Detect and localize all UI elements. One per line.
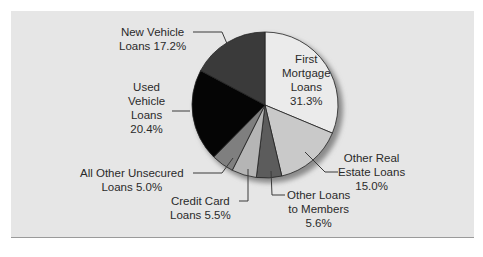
label-line: Loans [282,80,331,94]
label-credit-card: Credit Card Loans 5.5% [170,194,231,222]
label-value: 31.3% [282,94,331,108]
leader-new-vehicle [193,32,228,46]
label-line: Other Loans [287,188,350,202]
label-value: Loans 5.0% [80,180,184,194]
label-line: Credit Card [170,194,231,208]
label-used-vehicle: Used Vehicle Loans 20.4% [128,80,165,136]
label-new-vehicle: New Vehicle Loans 17.2% [119,25,186,53]
label-line: Estate Loans [338,165,405,179]
label-line: Mortgage [282,66,331,80]
label-other-loans-members: Other Loans to Members 5.6% [287,188,350,230]
label-line: First [282,52,331,66]
label-value: Loans 17.2% [119,39,186,53]
label-value: 5.6% [287,216,350,230]
label-value: Loans 5.5% [170,208,231,222]
label-line: Other Real [338,151,405,165]
label-line: Loans [128,108,165,122]
label-value: 20.4% [128,122,165,136]
label-all-other-unsecured: All Other Unsecured Loans 5.0% [80,166,184,194]
label-line: Used [128,80,165,94]
pie-chart [0,0,483,257]
label-line: New Vehicle [119,25,186,39]
label-line: to Members [287,202,350,216]
label-other-real-estate: Other Real Estate Loans 15.0% [338,151,405,193]
label-line: Vehicle [128,94,165,108]
label-first-mortgage: First Mortgage Loans 31.3% [282,52,331,108]
label-line: All Other Unsecured [80,166,184,180]
